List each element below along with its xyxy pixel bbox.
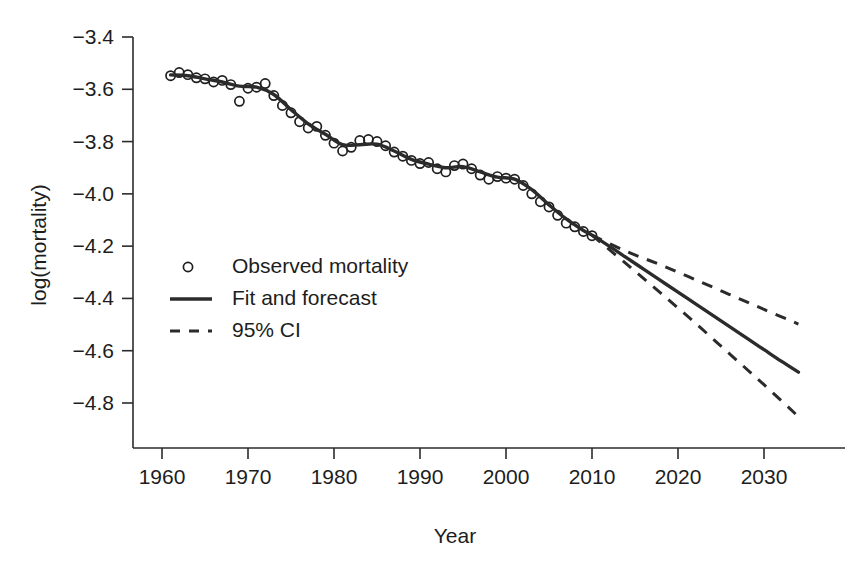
confidence-interval-line bbox=[592, 235, 798, 324]
x-axis-ticks: 19601970198019902000201020202030 bbox=[139, 448, 788, 488]
confidence-interval-line bbox=[592, 235, 798, 416]
x-tick-label: 2000 bbox=[483, 465, 530, 488]
x-tick-label: 1960 bbox=[139, 465, 186, 488]
observed-data-point bbox=[235, 97, 244, 106]
y-tick-label: −4.8 bbox=[73, 391, 114, 414]
legend-marker-open-circle-icon bbox=[183, 262, 192, 271]
x-axis: 19601970198019902000201020202030 bbox=[133, 448, 845, 488]
y-tick-label: −4.0 bbox=[73, 182, 114, 205]
y-tick-label: −3.4 bbox=[73, 25, 115, 48]
x-tick-label: 1990 bbox=[397, 465, 444, 488]
y-tick-label: −4.4 bbox=[73, 286, 115, 309]
data-series-group bbox=[166, 68, 798, 417]
observed-points-group bbox=[166, 68, 597, 240]
y-tick-label: −3.6 bbox=[73, 77, 114, 100]
y-axis-title: log(mortality) bbox=[27, 184, 50, 305]
x-tick-label: 2030 bbox=[741, 465, 788, 488]
y-axis-ticks: −3.4−3.6−3.8−4.0−4.2−4.4−4.6−4.8 bbox=[73, 25, 133, 414]
chart-legend: Observed mortalityFit and forecast95% CI bbox=[170, 254, 409, 341]
x-axis-title: Year bbox=[434, 524, 476, 547]
y-tick-label: −3.8 bbox=[73, 130, 114, 153]
observed-data-point bbox=[261, 79, 270, 88]
chart-canvas: −3.4−3.6−3.8−4.0−4.2−4.4−4.6−4.8 1960197… bbox=[0, 0, 855, 584]
legend-label: Observed mortality bbox=[232, 254, 409, 277]
x-tick-label: 2020 bbox=[655, 465, 702, 488]
legend-label: Fit and forecast bbox=[232, 286, 377, 309]
mortality-forecast-chart: −3.4−3.6−3.8−4.0−4.2−4.4−4.6−4.8 1960197… bbox=[0, 0, 855, 584]
x-tick-label: 2010 bbox=[569, 465, 616, 488]
x-tick-label: 1980 bbox=[311, 465, 358, 488]
y-axis: −3.4−3.6−3.8−4.0−4.2−4.4−4.6−4.8 bbox=[73, 25, 133, 448]
legend-label: 95% CI bbox=[232, 318, 301, 341]
y-tick-label: −4.2 bbox=[73, 234, 114, 257]
x-tick-label: 1970 bbox=[225, 465, 272, 488]
y-tick-label: −4.6 bbox=[73, 339, 114, 362]
